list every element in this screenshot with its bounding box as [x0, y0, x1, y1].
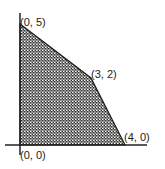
vertex-label-4-0: (4, 0) — [124, 131, 150, 143]
vertex-label-3-2: (3, 2) — [91, 68, 117, 80]
feasible-region — [20, 24, 125, 145]
vertex-label-0-5: (0, 5) — [20, 16, 46, 28]
vertex-label-origin: (0, 0) — [20, 149, 46, 161]
